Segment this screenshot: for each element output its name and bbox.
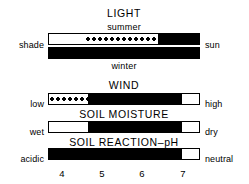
section-title-wind: WIND [109,80,139,91]
end-label-neutral: neutral [205,155,233,164]
bar-segment-black [49,149,182,159]
bar-segment-dotted [85,34,157,44]
end-label-high: high [205,100,222,109]
bar-segment-white [49,122,88,132]
bar-light-winter [48,47,200,59]
end-label-dry: dry [205,128,218,137]
sub-label-winter: winter [111,62,136,71]
bar-segment-dotted [49,94,88,104]
bar-segment-white [182,149,199,159]
bar-segment-white [182,94,199,104]
bar-segment-black [88,94,182,104]
habitat-tolerance-diagram: LIGHT summer shade sun winter WIND low h… [0,0,249,184]
bar-light-summer [48,33,200,45]
section-title-soil-reaction: SOIL REACTION–pH [69,137,179,148]
bar-wind [48,93,200,105]
end-label-low: low [30,100,44,109]
bar-soil-reaction [48,148,200,160]
ph-tick-label-5: 5 [99,169,104,179]
end-label-wet: wet [30,128,44,137]
end-label-acidic: acidic [20,155,44,164]
end-label-shade: shade [19,41,44,50]
bar-segment-white [49,34,85,44]
bar-segment-black [88,122,182,132]
sub-label-summer: summer [107,23,141,32]
bar-segment-black [158,34,199,44]
ph-tick-label-4: 4 [59,169,64,179]
section-title-soil-moisture: SOIL MOISTURE [79,109,169,120]
section-title-light: LIGHT [107,8,141,19]
bar-segment-white [182,122,199,132]
end-label-sun: sun [205,41,220,50]
bar-segment-black [49,48,199,58]
ph-tick-label-6: 6 [139,169,144,179]
ph-tick-label-7: 7 [180,169,185,179]
bar-soil-moisture [48,121,200,133]
